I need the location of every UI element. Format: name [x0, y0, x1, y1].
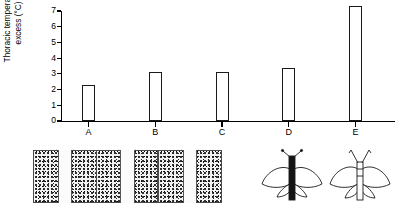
bar-b — [149, 72, 162, 121]
x-tick-B — [155, 122, 156, 127]
x-tick-C — [221, 122, 222, 127]
x-tick-label-c: C — [212, 128, 232, 137]
bar-chart: Thoracic temperature excess (°C) 0123456… — [0, 0, 401, 142]
bar-a — [82, 85, 95, 121]
y-tick-label-6: 6 — [42, 22, 56, 31]
pale-band-c — [183, 150, 197, 203]
y-tick-label-1: 1 — [42, 101, 56, 110]
x-tick-D — [288, 122, 289, 127]
y-tick-1 — [57, 105, 62, 106]
specimen-d — [259, 144, 325, 206]
specimen-b — [96, 144, 158, 206]
pale-band-a — [58, 150, 72, 203]
x-axis-line — [61, 121, 395, 122]
specimen-a — [33, 144, 97, 206]
bar-d — [282, 68, 295, 121]
y-tick-6 — [57, 26, 62, 27]
bar-c — [216, 72, 229, 121]
y-tick-label-0: 0 — [42, 116, 56, 125]
y-tick-label-7: 7 — [42, 6, 56, 15]
specimen-e — [326, 144, 394, 206]
y-tick-7 — [57, 10, 62, 11]
x-tick-label-e: E — [346, 128, 366, 137]
y-tick-0 — [57, 120, 62, 121]
y-tick-3 — [57, 73, 62, 74]
butterfly-e-icon — [326, 144, 394, 206]
figure: Thoracic temperature excess (°C) 0123456… — [0, 0, 401, 216]
y-tick-label-2: 2 — [42, 85, 56, 94]
x-tick-label-d: D — [279, 128, 299, 137]
butterfly-d-icon — [259, 144, 325, 206]
y-tick-2 — [57, 89, 62, 90]
bar-e — [349, 6, 362, 121]
x-tick-label-a: A — [78, 128, 98, 137]
y-tick-label-3: 3 — [42, 69, 56, 78]
y-tick-label-5: 5 — [42, 38, 56, 47]
x-tick-label-b: B — [145, 128, 165, 137]
pale-band-b — [120, 150, 135, 203]
y-axis-line — [61, 11, 62, 122]
x-tick-A — [88, 122, 89, 127]
plot-area: 01234567ABCDE — [61, 11, 395, 122]
specimen-strip — [0, 140, 401, 216]
y-tick-label-4: 4 — [42, 54, 56, 63]
specimen-c — [158, 144, 222, 206]
x-tick-E — [355, 122, 356, 127]
y-tick-5 — [57, 42, 62, 43]
y-axis-label: Thoracic temperature excess (°C) — [2, 0, 28, 84]
y-tick-4 — [57, 58, 62, 59]
